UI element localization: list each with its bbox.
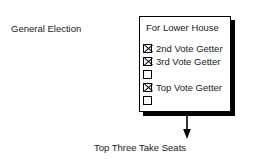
checkbox-empty-icon[interactable]: [143, 70, 152, 79]
ballot-title: For Lower House: [146, 22, 219, 34]
election-flow-diagram: General Election For Lower House 2nd Vot…: [0, 0, 254, 159]
ballot-option-row[interactable]: [143, 68, 228, 81]
ballot-option-row[interactable]: Top Vote Getter: [143, 81, 228, 94]
ballot-option-row[interactable]: [143, 94, 228, 107]
ballot-option-label: Top Vote Getter: [156, 82, 222, 93]
ballot-option-label: 2nd Vote Getter: [156, 43, 223, 54]
general-election-label: General Election: [11, 23, 81, 35]
ballot-option-list: 2nd Vote Getter 3rd Vote Getter Top Vote…: [143, 42, 228, 107]
checkbox-checked-icon[interactable]: [143, 44, 152, 53]
ballot-option-label: 3rd Vote Getter: [156, 56, 220, 67]
checkbox-empty-icon[interactable]: [143, 96, 152, 105]
ballot-box: For Lower House 2nd Vote Getter 3rd Vote…: [139, 16, 231, 112]
checkbox-checked-icon[interactable]: [143, 83, 152, 92]
checkbox-checked-icon[interactable]: [143, 57, 152, 66]
down-arrow-icon: [180, 112, 194, 140]
top-three-take-seats-caption: Top Three Take Seats: [0, 142, 254, 154]
ballot-option-row[interactable]: 2nd Vote Getter: [143, 42, 228, 55]
ballot-option-row[interactable]: 3rd Vote Getter: [143, 55, 228, 68]
bottom-caption-text: Top Three Take Seats: [94, 142, 186, 153]
